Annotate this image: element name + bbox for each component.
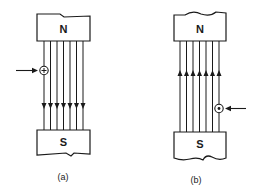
south-pole-label-a: S	[60, 136, 67, 148]
north-pole-label-b: N	[196, 23, 204, 35]
pointer-arrow-left-icon	[225, 106, 246, 111]
field-direction-arrows-down	[42, 103, 86, 109]
conductor-out-of-page-icon	[215, 104, 223, 112]
field-lines-b	[180, 41, 219, 132]
panel-a: N	[16, 14, 90, 182]
pointer-arrow-right-icon	[16, 68, 38, 73]
north-pole-label-a: N	[60, 23, 68, 35]
conductor-into-page-icon	[40, 66, 48, 74]
panel-b: N	[174, 12, 246, 185]
caption-b: (b)	[191, 175, 202, 185]
caption-a: (a)	[58, 172, 69, 182]
magnetic-field-diagram: N	[0, 0, 259, 190]
field-direction-arrows-up	[178, 70, 222, 76]
south-pole-label-b: S	[196, 138, 203, 150]
field-lines-a	[44, 41, 83, 130]
